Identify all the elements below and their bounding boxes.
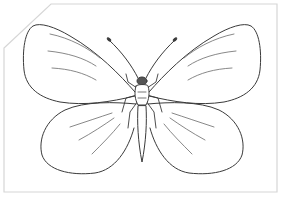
butterfly-head	[137, 77, 147, 85]
butterfly-thorax	[135, 85, 149, 106]
coloring-card	[0, 0, 284, 203]
